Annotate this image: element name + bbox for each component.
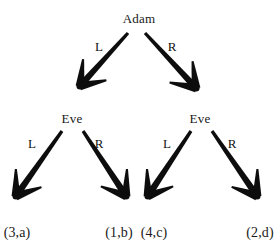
game-tree-figure: LRLRLRAdamEveEve(3,a)(1,b)(4,c)(2,d) xyxy=(0,0,279,245)
edge-arrowhead-tip xyxy=(253,192,260,199)
action-label-root-R: R xyxy=(168,40,177,53)
edge-arrowhead-tip xyxy=(144,192,151,199)
edge-layer xyxy=(0,0,279,245)
edge-evel-R xyxy=(82,130,131,200)
action-label-root-L: L xyxy=(95,40,103,53)
payoff-label-payoff-4c: (4,c) xyxy=(141,226,168,240)
edge-arrowhead-tip xyxy=(12,192,19,199)
node-label-eve-right: Eve xyxy=(190,112,211,125)
edge-evel-L xyxy=(12,130,64,200)
node-label-eve-left: Eve xyxy=(62,112,83,125)
edge-arrowhead-tip xyxy=(76,82,83,89)
payoff-label-payoff-2d: (2,d) xyxy=(246,226,273,240)
edge-arrowhead-barb-2 xyxy=(253,169,262,196)
edge-arrowhead-tip xyxy=(192,84,199,91)
action-label-ever-L: L xyxy=(163,137,171,150)
action-label-evel-L: L xyxy=(28,137,36,150)
action-label-evel-R: R xyxy=(95,137,104,150)
node-label-root: Adam xyxy=(123,12,156,25)
edge-arrowhead-barb-2 xyxy=(122,169,131,196)
edge-arrowhead-tip xyxy=(122,192,129,199)
payoff-label-payoff-3a: (3,a) xyxy=(4,226,31,240)
payoff-label-payoff-1b: (1,b) xyxy=(105,226,132,240)
action-label-ever-R: R xyxy=(228,137,237,150)
